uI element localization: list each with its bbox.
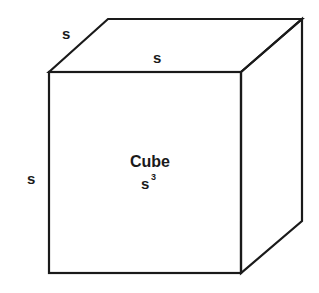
volume-formula-exponent: 3 bbox=[151, 172, 156, 182]
cube-diagram: s s s Cube s 3 bbox=[0, 0, 319, 293]
cube-top-face bbox=[49, 19, 302, 72]
edge-left-label: s bbox=[27, 170, 35, 187]
cube-right-face bbox=[241, 19, 302, 273]
volume-formula-base: s bbox=[141, 175, 149, 192]
edge-top-label: s bbox=[153, 49, 161, 66]
edge-depth-label: s bbox=[62, 25, 70, 42]
cube-front-face bbox=[49, 72, 241, 273]
cube-title-label: Cube bbox=[130, 153, 170, 170]
